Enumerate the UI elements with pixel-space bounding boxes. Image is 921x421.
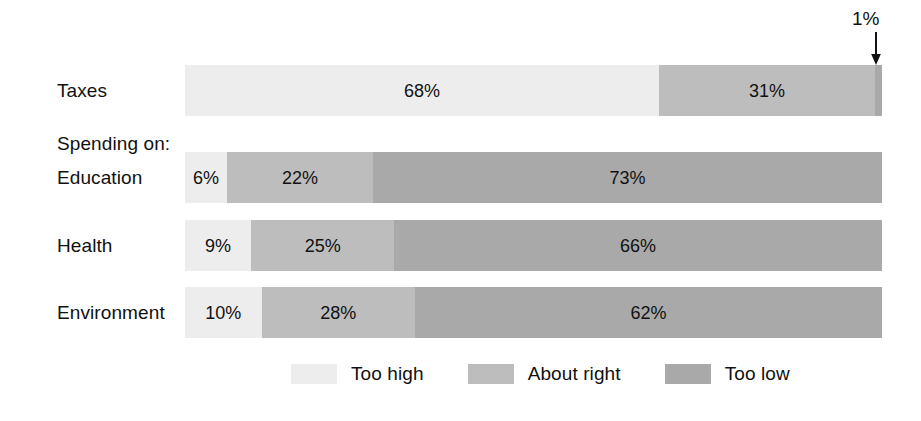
bar-value-education-about-right: 22% — [282, 169, 318, 187]
bar-value-environment-too-low: 62% — [630, 304, 666, 322]
bar-segment-taxes-too-high: 68% — [185, 65, 659, 116]
bar-value-health-about-right: 25% — [305, 237, 341, 255]
bar-segment-education-too-low: 73% — [373, 152, 882, 203]
row-label-taxes: Taxes — [57, 80, 107, 102]
legend-swatch-too-high-icon — [291, 364, 337, 384]
bar-value-health-too-high: 9% — [205, 237, 231, 255]
bar-segment-health-too-high: 9% — [185, 220, 251, 271]
bar-segment-health-about-right: 25% — [251, 220, 394, 271]
bar-segment-education-about-right: 22% — [227, 152, 373, 203]
bar-value-environment-too-high: 10% — [205, 304, 241, 322]
bar-segment-health-too-low: 66% — [394, 220, 882, 271]
legend-item-about-right: About right — [468, 363, 621, 385]
chart-legend: Too high About right Too low — [291, 363, 790, 385]
legend-item-too-low: Too low — [665, 363, 790, 385]
group-header-spending-on: Spending on: — [57, 133, 170, 155]
legend-label-too-high: Too high — [351, 363, 424, 385]
legend-swatch-too-low-icon — [665, 364, 711, 384]
bar-segment-environment-about-right: 28% — [262, 287, 415, 338]
bar-value-environment-about-right: 28% — [320, 304, 356, 322]
row-label-health: Health — [57, 235, 113, 257]
stacked-bar-chart: 1% Taxes 68% 31% Spending on: Education … — [0, 0, 921, 421]
row-label-environment: Environment — [57, 302, 165, 324]
bar-segment-education-too-high: 6% — [185, 152, 227, 203]
bar-segment-taxes-too-low — [875, 65, 882, 116]
legend-label-too-low: Too low — [725, 363, 790, 385]
bar-taxes: 68% 31% — [185, 65, 882, 116]
legend-item-too-high: Too high — [291, 363, 424, 385]
legend-label-about-right: About right — [528, 363, 621, 385]
bar-value-education-too-high: 6% — [193, 169, 219, 187]
bar-value-taxes-too-high: 68% — [404, 82, 440, 100]
bar-environment: 10% 28% 62% — [185, 287, 882, 338]
bar-value-taxes-about-right: 31% — [749, 82, 785, 100]
bar-segment-environment-too-high: 10% — [185, 287, 262, 338]
bar-health: 9% 25% 66% — [185, 220, 882, 271]
bar-education: 6% 22% 73% — [185, 152, 882, 203]
annotation-1-percent-label: 1% — [852, 8, 879, 30]
legend-swatch-about-right-icon — [468, 364, 514, 384]
bar-value-health-too-low: 66% — [620, 237, 656, 255]
bar-segment-taxes-about-right: 31% — [659, 65, 875, 116]
annotation-arrow-down-icon — [868, 32, 884, 66]
bar-value-education-too-low: 73% — [610, 169, 646, 187]
bar-segment-environment-too-low: 62% — [415, 287, 882, 338]
row-label-education: Education — [57, 167, 142, 189]
